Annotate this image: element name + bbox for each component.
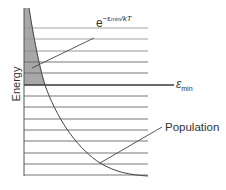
boltzmann-leader-line	[32, 38, 94, 68]
y-axis-label: Energy	[10, 62, 22, 106]
emin-label: εmin	[176, 77, 193, 92]
population-leader-line	[100, 127, 162, 163]
population-curve	[29, 8, 148, 176]
boltzmann-factor-label: e−εmin/kT	[96, 14, 132, 30]
energy-levels	[24, 28, 174, 175]
population-label: Population	[165, 121, 219, 133]
